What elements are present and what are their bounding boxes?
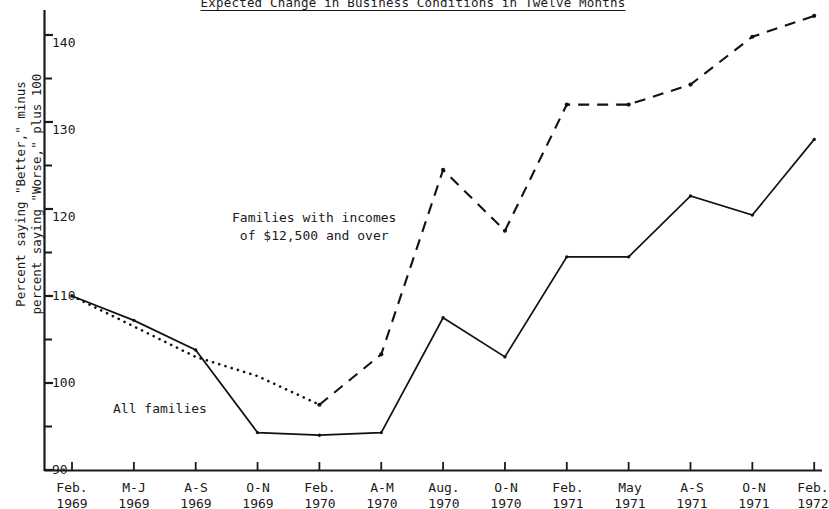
series-line-high-income-dashed [319,16,814,405]
series-line-all-families [72,139,814,435]
series-markers-high-income [317,14,816,407]
series-markers-all-families [70,138,816,437]
axes [45,10,823,471]
y-minor-ticks [45,79,53,427]
x-major-ticks [72,462,814,471]
series-group [70,14,816,437]
